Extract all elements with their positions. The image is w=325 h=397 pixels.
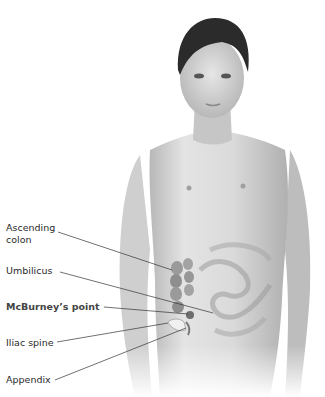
label-ascending-colon: Ascending colon [6,222,55,246]
right-nipple [241,184,246,189]
label-appendix: Appendix [6,374,51,386]
label-iliac-spine: Iliac spine [6,337,54,349]
label-ascending-colon-line1: Ascending [6,222,55,234]
label-ascending-colon-line2: colon [6,234,55,246]
label-mcburneys-point: McBurney’s point [6,301,100,313]
label-umbilicus: Umbilicus [6,265,52,277]
left-nipple [187,186,192,191]
mcburneys-point-marker [186,311,194,319]
head [178,18,249,118]
